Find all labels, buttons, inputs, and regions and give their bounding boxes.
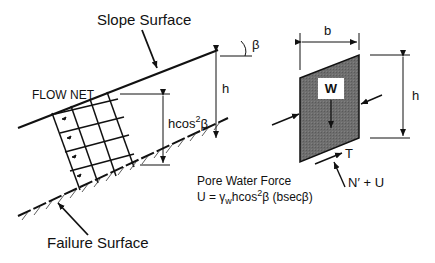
flow-net-grid: [52, 92, 134, 190]
slope-surface-label: Slope Surface: [97, 12, 191, 27]
pore-eq-mid: hcos: [232, 190, 257, 204]
pore-water-equation: U = γwhcos2β (bsecβ): [197, 191, 313, 203]
slope-diagram: [0, 0, 435, 263]
failure-surface-pointer: [58, 203, 88, 235]
weight-label-box: W: [318, 78, 344, 99]
normal-force-label: N′ + U: [348, 176, 384, 189]
weight-label: W: [325, 81, 337, 96]
hcos-exponent: 2: [195, 114, 200, 124]
h-left-label: h: [222, 82, 229, 95]
beta-label: β: [252, 38, 259, 51]
pore-water-title: Pore Water Force: [197, 175, 291, 187]
pore-eq-lhs: U = γ: [197, 190, 225, 204]
h-right-label: h: [412, 89, 419, 102]
side-force-right: [361, 95, 382, 104]
hcos-label: hcos2β: [168, 117, 208, 130]
b-label: b: [324, 24, 331, 37]
pore-eq-rhs: β (bsecβ): [262, 190, 312, 204]
pore-eq-exp: 2: [257, 188, 262, 198]
shear-label: T: [345, 147, 353, 160]
failure-surface-label: Failure Surface: [47, 235, 149, 250]
flow-net-label: FLOW NET: [32, 89, 94, 101]
slope-surface-pointer: [142, 30, 157, 68]
hcos-text: hcos: [168, 116, 195, 131]
beta-arc-icon: [241, 41, 246, 56]
hcos-beta: β: [200, 116, 207, 131]
normal-force-arrow: [334, 162, 345, 187]
pore-eq-sub: w: [225, 196, 232, 206]
side-force-left: [272, 114, 299, 125]
